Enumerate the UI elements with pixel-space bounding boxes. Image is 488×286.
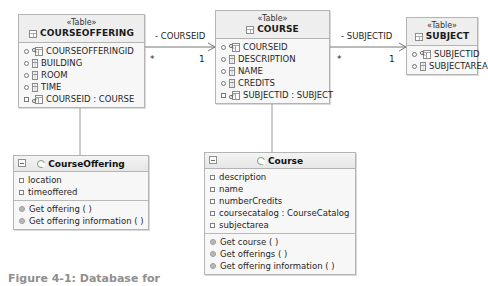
table-icon (415, 33, 423, 41)
figure-caption: Figure 4-1: Database for (8, 272, 160, 285)
visibility-public-icon (24, 73, 29, 78)
list-item[interactable]: Get offerings ( ) (205, 248, 355, 260)
list-item[interactable]: location (14, 174, 148, 186)
table-subject[interactable]: «Table» SUBJECT SUBJECTID SUBJECTAREA (406, 17, 478, 75)
association-label-subjectid: - SUBJECTID (341, 31, 392, 41)
operation-marker-icon (19, 206, 25, 212)
column-label: DESCRIPTION (238, 53, 296, 65)
operation-marker-icon (210, 239, 216, 245)
collapse-icon[interactable] (209, 156, 217, 164)
collapse-icon[interactable] (18, 159, 26, 167)
primary-key-icon (420, 50, 431, 59)
table-row[interactable]: CREDITS (216, 77, 329, 89)
table-name: COURSEOFFERING (40, 28, 134, 39)
class-course-operations: Get course ( ) Get offerings ( ) Get off… (205, 233, 355, 274)
operation-marker-icon (210, 251, 216, 257)
class-courseoffering-header: CourseOffering (14, 156, 148, 172)
list-item[interactable]: timeoffered (14, 186, 148, 198)
list-item[interactable]: description (205, 171, 355, 183)
table-row[interactable]: BUILDING (19, 57, 144, 69)
table-row[interactable]: SUBJECTID : SUBJECT (216, 89, 329, 101)
table-subject-columns: SUBJECTID SUBJECTAREA (407, 46, 477, 74)
visibility-public-icon (24, 49, 29, 54)
column-label: SUBJECTID (434, 48, 480, 60)
table-row[interactable]: DESCRIPTION (216, 53, 329, 65)
operation-label: Get offering information ( ) (220, 260, 335, 272)
primary-key-icon (229, 43, 240, 52)
foreign-key-icon (32, 95, 43, 104)
visibility-public-icon (221, 81, 226, 86)
column-icon (229, 55, 235, 64)
list-item[interactable]: Get offering information ( ) (14, 215, 148, 227)
list-item[interactable]: coursecatalog : CourseCatalog (205, 207, 355, 219)
operation-label: Get offering ( ) (29, 203, 92, 215)
stereotype-label: «Table» (23, 18, 140, 28)
class-course[interactable]: Course description name numberCredits co… (204, 152, 356, 275)
list-item[interactable]: Get course ( ) (205, 236, 355, 248)
table-row[interactable]: COURSEID (216, 41, 329, 53)
visibility-public-icon (24, 61, 29, 66)
stereotype-label: «Table» (411, 21, 473, 31)
table-row[interactable]: SUBJECTAREA (407, 60, 477, 72)
operation-label: Get course ( ) (220, 236, 278, 248)
table-course[interactable]: «Table» COURSE COURSEID DESCRIPTION (215, 10, 330, 104)
class-icon (257, 157, 265, 165)
class-icon (37, 160, 45, 168)
column-icon (32, 71, 38, 80)
attribute-marker-icon (19, 178, 24, 183)
visibility-public-icon (412, 64, 417, 69)
table-courseoffering[interactable]: «Table» COURSEOFFERING COURSEOFFERINGID … (18, 14, 145, 108)
column-label: TIME (41, 81, 61, 93)
visibility-protected-icon (24, 97, 29, 102)
class-course-attributes: description name numberCredits coursecat… (205, 169, 355, 233)
multiplicity-courseoffering-source: * (150, 54, 155, 64)
table-row[interactable]: COURSEID : COURSE (19, 93, 144, 105)
table-name: SUBJECT (426, 31, 470, 42)
class-courseoffering-attributes: location timeoffered (14, 172, 148, 200)
attribute-marker-icon (19, 190, 24, 195)
table-row[interactable]: SUBJECTID (407, 48, 477, 60)
list-item[interactable]: numberCredits (205, 195, 355, 207)
foreign-key-icon (229, 91, 240, 100)
class-name: Course (268, 156, 303, 166)
visibility-public-icon (24, 85, 29, 90)
attribute-label: numberCredits (219, 195, 282, 207)
class-name: CourseOffering (48, 159, 125, 169)
association-label-courseid: - COURSEID (155, 31, 205, 41)
list-item[interactable]: name (205, 183, 355, 195)
attribute-label: subjectarea (219, 219, 269, 231)
table-row[interactable]: NAME (216, 65, 329, 77)
column-icon (229, 79, 235, 88)
visibility-public-icon (221, 45, 226, 50)
table-row[interactable]: ROOM (19, 69, 144, 81)
list-item[interactable]: subjectarea (205, 219, 355, 231)
column-label: COURSEOFFERINGID (46, 45, 134, 57)
visibility-public-icon (412, 52, 417, 57)
list-item[interactable]: Get offering ( ) (14, 203, 148, 215)
attribute-marker-icon (210, 199, 215, 204)
table-row[interactable]: COURSEOFFERINGID (19, 45, 144, 57)
list-item[interactable]: Get offering information ( ) (205, 260, 355, 272)
operation-marker-icon (210, 263, 216, 269)
table-icon (29, 30, 37, 38)
table-row[interactable]: TIME (19, 81, 144, 93)
table-icon (246, 26, 254, 34)
primary-key-icon (32, 47, 43, 56)
visibility-public-icon (221, 69, 226, 74)
attribute-label: description (219, 171, 266, 183)
attribute-label: coursecatalog : CourseCatalog (219, 207, 349, 219)
multiplicity-course-source: * (337, 54, 342, 64)
stereotype-label: «Table» (220, 14, 325, 24)
class-course-header: Course (205, 153, 355, 169)
visibility-public-icon (221, 57, 226, 62)
table-subject-header: «Table» SUBJECT (407, 18, 477, 46)
column-label: ROOM (41, 69, 68, 81)
class-courseoffering[interactable]: CourseOffering location timeoffered Get … (13, 155, 149, 230)
attribute-marker-icon (210, 187, 215, 192)
multiplicity-courseoffering-target: 1 (199, 54, 205, 64)
column-icon (32, 83, 38, 92)
attribute-marker-icon (210, 223, 215, 228)
column-icon (32, 59, 38, 68)
table-course-columns: COURSEID DESCRIPTION NAME CREDITS (216, 39, 329, 103)
